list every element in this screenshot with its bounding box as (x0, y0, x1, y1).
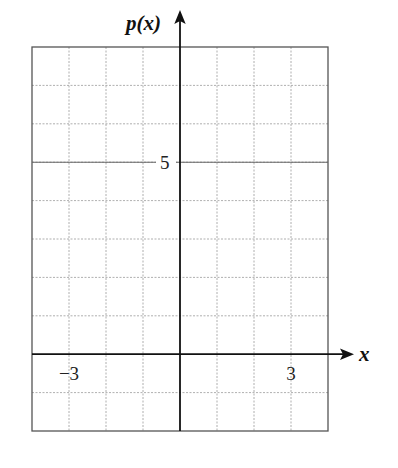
x-tick-label-neg3: −3 (59, 363, 79, 384)
coordinate-grid-chart: x p(x) 5 −3 3 (0, 0, 398, 468)
y-tick-label-5: 5 (160, 152, 170, 173)
x-axis-label: x (358, 342, 370, 366)
x-tick-label-3: 3 (286, 363, 296, 384)
y-axis-label: p(x) (124, 11, 161, 35)
